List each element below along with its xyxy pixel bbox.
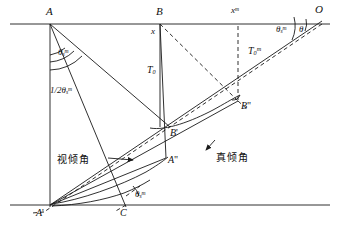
figure-canvas: A B O x xm T0 T0m θsm 1/2θsm B' B" A" A'… [0,0,337,235]
angle-arc-O-outer [292,17,295,40]
apparent-dip-arrow [108,158,133,160]
label-offset-x-m: xm [231,6,239,15]
label-offset-x: x [151,27,155,36]
reflector-line-O-Aprime [50,21,322,205]
label-half-angle: 1/2θsm [50,86,72,96]
angle-arc-O-inner [305,19,307,31]
label-angle-theta-C: θsm [135,190,146,200]
label-point-A: A [46,6,53,17]
label-apparent-dip: 视倾角 [57,151,90,166]
label-point-B-dprime: B" [241,101,251,111]
label-angle-theta-A: θsm [58,48,69,58]
label-point-A-dprime: A" [168,155,178,165]
dashed-O-Aprime-ray [44,24,322,212]
label-angle-theta-plain: θ [299,25,303,34]
label-point-O: O [315,4,323,15]
label-angle-theta-O: θsm [276,25,287,35]
label-point-A-prime: A' [36,208,44,218]
label-point-B: B [156,6,163,17]
ray-B-Adprime [160,24,166,158]
label-true-dip: 真倾角 [216,149,249,164]
label-point-B-prime: B' [170,128,178,138]
true-dip-arrow [206,140,215,150]
label-time-T0m: T0m [248,46,261,57]
diagram-vector-layer [0,0,337,235]
dashed-B-Bdprime [160,24,238,101]
label-time-T0: T0 [147,65,156,76]
label-point-C: C [120,208,127,218]
